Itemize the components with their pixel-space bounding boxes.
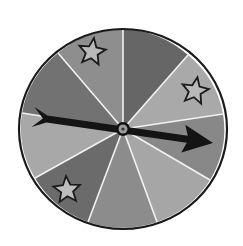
spinner-illustration: [0, 0, 243, 246]
center-hub: [116, 122, 130, 136]
spinner-wheel: [0, 0, 243, 246]
hub-pin: [121, 127, 124, 130]
